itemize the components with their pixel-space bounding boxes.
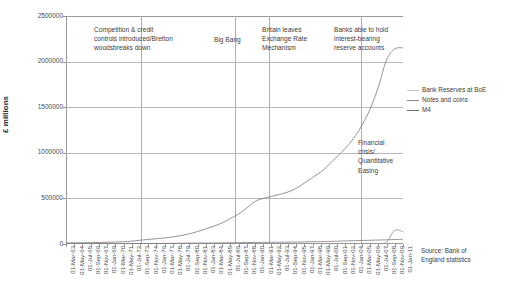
legend-color-swatch [407, 90, 419, 91]
x-axis-tick-label: 01-Jul-93 [282, 246, 288, 271]
legend-color-swatch [407, 100, 419, 101]
chart-figure: £ millions 05000001000000150000020000002… [0, 0, 508, 301]
x-axis-tick-label: 01-Nov-02 [348, 246, 354, 274]
x-axis-tick-label: 01-Jul-86 [233, 246, 239, 271]
annotation-label: Competition & credit controls introduced… [94, 25, 173, 53]
x-axis-tick-label: 01-Mar-91 [266, 246, 272, 274]
x-axis-tick-label: 01-Jul-72 [134, 246, 140, 271]
source-note: Source: Bank of England statistics [421, 246, 507, 264]
y-axis-tick-label: 2000000 [38, 58, 63, 65]
y-axis-tick-label: 2500000 [38, 13, 63, 20]
x-axis-tick-label: 01-Jul-00 [331, 246, 337, 271]
series-line [66, 48, 403, 243]
x-axis-tick-label: 01-May-64 [77, 246, 83, 275]
x-axis-tick-label: 01-May-85 [225, 246, 231, 275]
x-axis-tick-label: 01-Mar-63 [68, 246, 74, 274]
y-axis-tick-label: 1500000 [38, 104, 63, 111]
annotation-label: Banks able to hold interest-bearing rese… [334, 25, 388, 53]
x-axis-tick-label: 01-Sep-80 [192, 246, 198, 274]
legend-label: M4 [422, 107, 431, 113]
x-axis-tick-label: 01-May-92 [274, 246, 280, 275]
x-axis-tick-label: 01-Nov-67 [101, 246, 107, 274]
legend-label: Notes and coins [422, 97, 468, 103]
annotation-label: Britain leaves Exchange Rate Mechanism [262, 25, 307, 53]
legend-color-swatch [407, 110, 419, 111]
x-axis-tick-label: 01-Jan-76 [159, 246, 165, 273]
x-axis-tick-label: 01-Jul-07 [381, 246, 387, 271]
legend-item: M4 [407, 106, 507, 115]
annotation-label: Financial crisis/ Quantitative Easing [358, 138, 403, 175]
x-axis-tick-label: 01-Jan-69 [109, 246, 115, 273]
x-axis-tick-label: 01-May-99 [323, 246, 329, 275]
x-axis-tick-label: 01-Nov-95 [299, 246, 305, 274]
x-axis-tick-label: 01-Jan-83 [208, 246, 214, 273]
x-axis-tick-label: 01-Mar-05 [364, 246, 370, 274]
x-axis-tick-label: 01-Mar-84 [216, 246, 222, 274]
series-line [66, 239, 403, 243]
x-axis-tick-label: 01-Jan-04 [356, 246, 362, 273]
x-axis-tick-labels: 01-Mar-6301-May-6401-Jul-6501-Sep-6601-N… [66, 246, 403, 301]
x-axis-tick-label: 01-Jan-11 [405, 246, 411, 273]
x-axis-tick-label: 01-Sep-73 [142, 246, 148, 274]
x-axis-tick-label: 01-Mar-77 [167, 246, 173, 274]
x-axis-tick-label: 01-Nov-09 [397, 246, 403, 274]
x-axis-tick-label: 01-Nov-88 [249, 246, 255, 274]
x-axis-tick-label: 01-Jan-90 [257, 246, 263, 273]
x-axis-tick-label: 01-Jan-97 [307, 246, 313, 273]
x-axis-tick-label: 01-May-78 [175, 246, 181, 275]
plot-area: Competition & credit controls introduced… [66, 16, 403, 244]
x-axis-tick-label: 01-Sep-87 [241, 246, 247, 274]
y-axis-tick-label: 500000 [41, 195, 63, 202]
chart-legend: Bank Reserves at BoENotes and coinsM4 [407, 86, 507, 116]
x-axis-tick-label: 01-May-71 [126, 246, 132, 275]
x-axis-tick-label: 01-Sep-66 [93, 246, 99, 274]
y-axis-tick-labels: 05000001000000150000020000002500000 [0, 0, 63, 301]
x-axis-tick-label: 01-Sep-94 [290, 246, 296, 274]
x-axis-tick-label: 01-May-06 [373, 246, 379, 275]
x-axis-tick-label: 01-Sep-01 [340, 246, 346, 274]
x-axis-tick-label: 01-Jul-65 [85, 246, 91, 271]
legend-item: Bank Reserves at BoE [407, 86, 507, 95]
legend-item: Notes and coins [407, 96, 507, 105]
x-axis-tick-label: 01-Mar-98 [315, 246, 321, 274]
x-axis-tick-label: 01-Nov-81 [200, 246, 206, 274]
legend-label: Bank Reserves at BoE [422, 87, 486, 93]
x-axis-tick-label: 01-Nov-74 [151, 246, 157, 274]
x-axis-tick-label: 01-Mar-70 [118, 246, 124, 274]
x-axis-tick-label: 01-Sep-08 [389, 246, 395, 274]
x-axis-tick-label: 01-Jul-79 [183, 246, 189, 271]
y-axis-tick-label: 1000000 [38, 149, 63, 156]
annotation-label: Big Bang [214, 35, 241, 44]
